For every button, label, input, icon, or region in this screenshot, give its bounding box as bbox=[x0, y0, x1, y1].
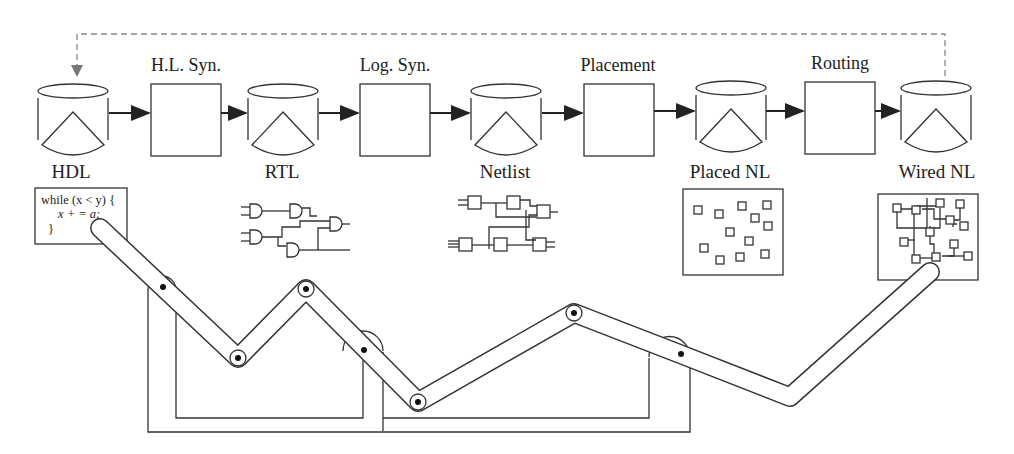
stage-label-hl-syn: H.L. Syn. bbox=[151, 55, 221, 75]
db-label-placed-nl: Placed NL bbox=[690, 161, 771, 182]
database-wired-nl-icon bbox=[901, 81, 971, 152]
stage-label-log-syn: Log. Syn. bbox=[360, 55, 431, 75]
code-line-1: while (x < y) { bbox=[41, 193, 115, 207]
stage-label-routing: Routing bbox=[811, 53, 869, 73]
flow-arrows bbox=[109, 111, 899, 113]
db-label-netlist: Netlist bbox=[480, 161, 531, 182]
database-netlist-icon bbox=[471, 84, 541, 155]
db-label-rtl: RTL bbox=[265, 161, 300, 182]
rtl-gates-schematic bbox=[241, 204, 350, 257]
design-flow-diagram: H.L. Syn. Log. Syn. Placement Routing HD… bbox=[0, 0, 1014, 454]
robot-arm bbox=[100, 228, 930, 410]
placed-nl-panel bbox=[683, 189, 783, 275]
stage-label-placement: Placement bbox=[581, 55, 656, 75]
database-hdl-icon bbox=[38, 84, 108, 155]
database-rtl-icon bbox=[248, 84, 318, 155]
code-line-3: } bbox=[48, 222, 54, 236]
stage-box-routing bbox=[805, 82, 875, 154]
db-label-hdl: HDL bbox=[51, 161, 90, 182]
stage-box-hl-syn bbox=[151, 84, 221, 156]
stage-box-log-syn bbox=[360, 84, 430, 156]
db-label-wired-nl: Wired NL bbox=[899, 161, 976, 182]
database-placed-nl-icon bbox=[696, 81, 766, 152]
netlist-schematic bbox=[448, 196, 558, 251]
code-line-2: x + = a; bbox=[57, 207, 100, 221]
stage-box-placement bbox=[584, 84, 654, 156]
